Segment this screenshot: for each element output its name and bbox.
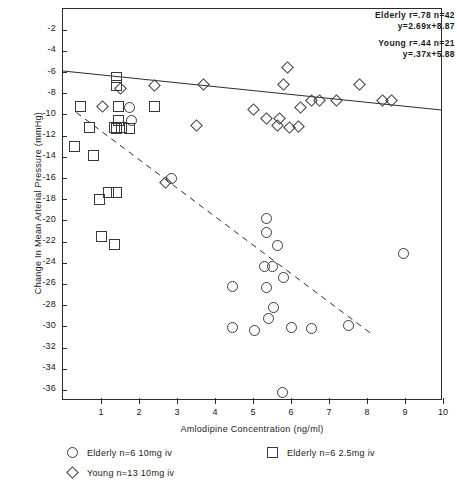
y-tick-label: -14 [42, 150, 56, 160]
data-point-circle [261, 282, 272, 293]
x-tick-mark [177, 398, 178, 404]
x-tick-label: 5 [247, 407, 259, 417]
annotation-young: Young r=.44 n=21 y=.37x+5.88 [378, 38, 455, 60]
annotation-young-line2: y=.37x+5.88 [378, 49, 455, 60]
y-tick-mark [62, 178, 67, 179]
y-tick-label: -24 [42, 256, 56, 266]
y-tick-mark [62, 305, 67, 306]
data-point-circle [261, 213, 272, 224]
y-tick-mark [62, 220, 67, 221]
y-tick-label: -36 [42, 383, 56, 393]
y-tick-mark [62, 369, 67, 370]
x-tick-label: 6 [285, 407, 297, 417]
y-tick-label: -2 [48, 23, 56, 33]
y-tick-mark [62, 284, 67, 285]
y-tick-label: -12 [42, 129, 56, 139]
y-tick-mark [62, 72, 67, 73]
data-point-circle [343, 320, 354, 331]
x-tick-mark [139, 398, 140, 404]
x-tick-mark [329, 398, 330, 404]
scatter-plot-figure: Change In Mean Arterial Pressure (mmHg) … [0, 0, 457, 488]
y-tick-label: -30 [42, 320, 56, 330]
y-tick-label: -18 [42, 193, 56, 203]
x-tick-mark [215, 398, 216, 404]
data-point-square [113, 101, 124, 112]
data-point-circle [124, 102, 135, 113]
data-point-circle [272, 240, 283, 251]
data-point-circle [267, 261, 278, 272]
regression-lines [63, 9, 441, 399]
data-point-circle [278, 272, 289, 283]
data-point-square [149, 101, 160, 112]
y-tick-label: -28 [42, 299, 56, 309]
y-tick-label: -8 [48, 87, 56, 97]
y-tick-mark [62, 93, 67, 94]
y-tick-label: -26 [42, 277, 56, 287]
x-tick-label: 4 [209, 407, 221, 417]
annotation-elderly-line1: Elderly r=.78 n=42 [375, 10, 455, 21]
plot-inner [63, 9, 441, 399]
y-tick-mark [62, 199, 67, 200]
y-tick-mark [62, 51, 67, 52]
data-point-circle [261, 227, 272, 238]
y-tick-mark [62, 390, 67, 391]
legend-item-young-10mg: Young n=13 10mg iv [66, 466, 174, 479]
y-tick-label: -6 [48, 66, 56, 76]
legend-label-elderly-10mg: Elderly n=6 10mg iv [87, 448, 172, 458]
y-tick-mark [62, 348, 67, 349]
data-point-circle [398, 248, 409, 259]
data-point-circle [249, 325, 260, 336]
y-tick-mark [62, 242, 67, 243]
annotation-young-line1: Young r=.44 n=21 [378, 38, 455, 49]
y-tick-label: -16 [42, 172, 56, 182]
x-axis-title: Amlodipine Concentration (ng/ml) [62, 424, 442, 434]
legend-item-elderly-2-5mg: Elderly n=6 2.5mg iv [266, 446, 375, 459]
annotation-elderly: Elderly r=.78 n=42 y=2.69x+8.87 [375, 10, 455, 32]
x-tick-label: 3 [171, 407, 183, 417]
y-tick-mark [62, 326, 67, 327]
y-tick-label: -34 [42, 362, 56, 372]
data-point-square [75, 101, 86, 112]
square-marker-icon [266, 446, 279, 459]
annotation-elderly-line2: y=2.69x+8.87 [375, 21, 455, 32]
x-tick-label: 9 [399, 407, 411, 417]
x-tick-label: 2 [133, 407, 145, 417]
y-tick-mark [62, 263, 67, 264]
x-tick-label: 7 [323, 407, 335, 417]
data-point-circle [263, 313, 274, 324]
x-tick-mark [405, 398, 406, 404]
data-point-circle [227, 281, 238, 292]
y-tick-mark [62, 157, 67, 158]
diamond-marker-icon [66, 466, 79, 479]
x-tick-mark [443, 398, 444, 404]
x-tick-mark [253, 398, 254, 404]
x-tick-mark [101, 398, 102, 404]
y-tick-mark [62, 30, 67, 31]
y-tick-mark [62, 114, 67, 115]
y-tick-label: -22 [42, 235, 56, 245]
y-tick-mark [62, 136, 67, 137]
y-tick-label: -32 [42, 341, 56, 351]
data-point-circle [286, 322, 297, 333]
x-tick-label: 1 [95, 407, 107, 417]
data-point-square [69, 141, 80, 152]
legend-label-young-10mg: Young n=13 10mg iv [87, 468, 174, 478]
regression-line-elderly [76, 112, 373, 335]
x-tick-mark [367, 398, 368, 404]
x-tick-label: 8 [361, 407, 373, 417]
data-point-square [96, 231, 107, 242]
x-tick-mark [291, 398, 292, 404]
data-point-square [109, 239, 120, 250]
data-point-square [113, 115, 124, 126]
legend-item-elderly-10mg: Elderly n=6 10mg iv [66, 446, 172, 459]
circle-marker-icon [66, 446, 79, 459]
data-point-square [111, 187, 122, 198]
data-point-circle [227, 322, 238, 333]
y-tick-label: -10 [42, 108, 56, 118]
x-tick-label: 10 [437, 407, 449, 417]
plot-area: -2-4-6-8-10-12-14-16-18-20-22-24-26-28-3… [62, 8, 442, 400]
y-tick-label: -4 [48, 44, 56, 54]
legend-label-elderly-2-5mg: Elderly n=6 2.5mg iv [287, 448, 375, 458]
y-tick-label: -20 [42, 214, 56, 224]
data-point-square [124, 123, 135, 134]
